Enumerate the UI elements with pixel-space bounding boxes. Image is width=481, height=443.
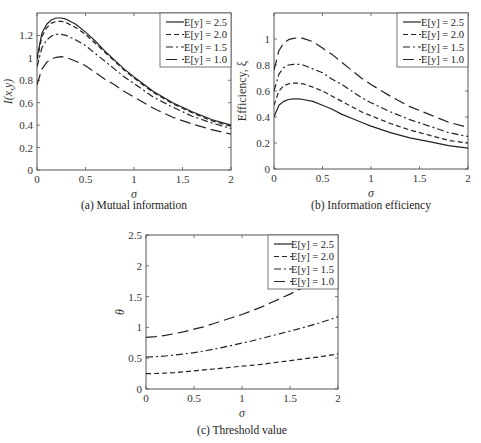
y-tick-label: 0 bbox=[265, 163, 271, 175]
legend-entry: E[y] = 1.0 bbox=[421, 54, 464, 65]
y-tick-label: 2.5 bbox=[128, 229, 142, 241]
series-group bbox=[146, 284, 338, 373]
y-axis-label: Efficiency, ξ bbox=[235, 60, 249, 121]
x-tick-label: 1 bbox=[368, 172, 374, 184]
x-tick-label: 1.5 bbox=[413, 172, 427, 184]
legend-entry: E[y] = 1.5 bbox=[184, 42, 227, 53]
y-tick-label: 0.5 bbox=[128, 352, 142, 364]
x-tick-label: 0 bbox=[271, 172, 277, 184]
legend-entry: E[y] = 2.5 bbox=[421, 17, 464, 28]
x-tick-label: 1 bbox=[131, 173, 137, 185]
series-line-1-0 bbox=[146, 284, 309, 337]
x-tick-label: 0.5 bbox=[316, 172, 330, 184]
y-tick-label: 2 bbox=[137, 260, 143, 272]
x-tick-label: 2 bbox=[228, 173, 234, 185]
chart-panel-a: 00.511.5200.20.40.60.811.2σI(x,y)(a) Mut… bbox=[1, 13, 234, 212]
y-tick-label: 0.6 bbox=[256, 85, 270, 97]
legend-entry: E[y] = 1.5 bbox=[421, 42, 464, 53]
series-line-2-0 bbox=[146, 354, 338, 374]
legend-entry: E[y] = 2.0 bbox=[184, 29, 227, 40]
chart-panel-b: 00.511.5200.20.40.60.81σEfficiency, ξ(b)… bbox=[235, 13, 471, 212]
legend-entry: E[y] = 2.0 bbox=[421, 29, 464, 40]
x-axis-label: σ bbox=[239, 406, 246, 420]
y-tick-label: 0.2 bbox=[256, 137, 270, 149]
x-tick-label: 0 bbox=[34, 173, 40, 185]
x-tick-label: 1.5 bbox=[176, 173, 190, 185]
x-tick-label: 1.5 bbox=[283, 392, 297, 404]
y-tick-label: 0.2 bbox=[19, 142, 33, 154]
x-tick-label: 2 bbox=[465, 172, 471, 184]
y-tick-label: 1.2 bbox=[19, 29, 33, 41]
figure: 00.511.5200.20.40.60.811.2σI(x,y)(a) Mut… bbox=[0, 0, 481, 443]
y-tick-label: 0.4 bbox=[256, 111, 270, 123]
chart-caption: (c) Threshold value bbox=[197, 424, 287, 437]
x-tick-label: 0.5 bbox=[79, 173, 93, 185]
legend: E[y] = 2.5E[y] = 2.0E[y] = 1.5E[y] = 1.0 bbox=[268, 235, 338, 289]
x-tick-label: 0 bbox=[143, 392, 149, 404]
y-tick-label: 0.8 bbox=[19, 74, 33, 86]
y-tick-label: 1 bbox=[265, 33, 271, 45]
x-tick-label: 1 bbox=[239, 392, 245, 404]
y-tick-label: 0.4 bbox=[19, 119, 33, 131]
chart-panel-c: 00.511.5200.511.522.5σθ(c) Threshold val… bbox=[113, 229, 341, 437]
y-tick-label: 0.6 bbox=[19, 97, 33, 109]
y-axis-label: I(x,y) bbox=[1, 79, 15, 106]
series-line-2-0 bbox=[274, 83, 468, 143]
legend: E[y] = 2.5E[y] = 2.0E[y] = 1.5E[y] = 1.0 bbox=[397, 13, 468, 67]
series-line-1-5 bbox=[146, 317, 338, 357]
legend-entry: E[y] = 1.5 bbox=[291, 264, 334, 275]
legend-entry: E[y] = 2.5 bbox=[291, 239, 334, 250]
legend: E[y] = 2.5E[y] = 2.0E[y] = 1.5E[y] = 1.0 bbox=[160, 13, 231, 67]
y-tick-label: 0 bbox=[137, 383, 143, 395]
y-tick-label: 1.5 bbox=[128, 291, 142, 303]
y-tick-label: 1 bbox=[28, 52, 34, 64]
y-axis-label: θ bbox=[113, 309, 127, 315]
chart-caption: (b) Information efficiency bbox=[311, 199, 431, 212]
y-tick-label: 0.8 bbox=[256, 59, 270, 71]
x-tick-label: 2 bbox=[335, 392, 341, 404]
x-axis-label: σ bbox=[368, 186, 375, 200]
legend-entry: E[y] = 1.0 bbox=[184, 54, 227, 65]
x-tick-label: 0.5 bbox=[187, 392, 201, 404]
chart-caption: (a) Mutual information bbox=[81, 199, 187, 212]
y-tick-label: 0 bbox=[28, 164, 34, 176]
series-line-2-5 bbox=[274, 99, 468, 148]
series-line-1-0 bbox=[37, 57, 231, 134]
y-tick-label: 1 bbox=[137, 321, 143, 333]
legend-entry: E[y] = 2.0 bbox=[291, 251, 334, 262]
legend-entry: E[y] = 2.5 bbox=[184, 17, 227, 28]
legend-entry: E[y] = 1.0 bbox=[291, 276, 334, 287]
